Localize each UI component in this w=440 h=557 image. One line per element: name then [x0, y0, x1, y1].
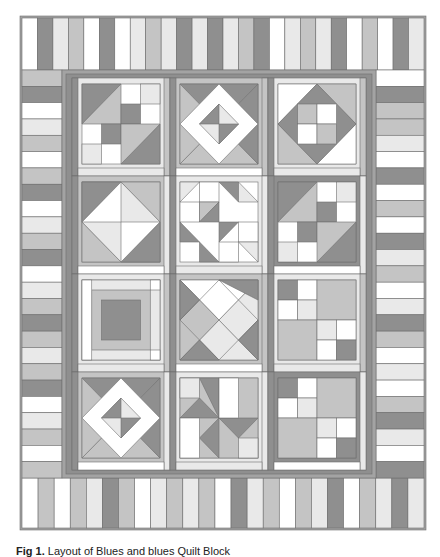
top-border-stripe [53, 18, 68, 70]
right-border-stripe [376, 347, 424, 363]
bottom-border-stripe [263, 478, 279, 528]
left-border-stripe [22, 347, 62, 363]
right-border-stripe [376, 298, 424, 314]
right-border-stripe [376, 413, 424, 429]
left-border-stripe [22, 250, 62, 266]
right-border-stripe [376, 282, 424, 298]
left-border-stripe [22, 70, 62, 86]
left-border-stripe [22, 413, 62, 429]
figure-caption: Fig 1. Layout of Blues and blues Quilt B… [16, 546, 230, 557]
bottom-border-stripe [54, 478, 70, 528]
left-border-stripe [22, 396, 62, 412]
right-border-stripe [376, 315, 424, 331]
right-border-stripe [376, 184, 424, 200]
right-border-stripe [376, 168, 424, 184]
left-border-stripe [22, 331, 62, 347]
left-border-stripe [22, 168, 62, 184]
bottom-border-stripe [38, 478, 54, 528]
top-border-stripe [316, 18, 331, 70]
left-border-stripe [22, 119, 62, 135]
top-border-stripe [378, 18, 393, 70]
quilt-block-3-3 [268, 274, 366, 372]
left-border-stripe [22, 86, 62, 102]
bottom-border-stripe [408, 478, 424, 528]
bottom-border-stripe [151, 478, 167, 528]
top-border-stripe [347, 18, 362, 70]
bottom-border-stripe [328, 478, 344, 528]
right-border-stripe [376, 266, 424, 282]
quilt-block-1-1 [72, 78, 170, 176]
bottom-border-stripe [118, 478, 134, 528]
bottom-border-stripe [183, 478, 199, 528]
top-border-stripe [161, 18, 176, 70]
top-border-stripe [285, 18, 300, 70]
bottom-border-stripe [376, 478, 392, 528]
left-border-stripe [22, 152, 62, 168]
bottom-border-stripe [215, 478, 231, 528]
right-border-stripe [376, 380, 424, 396]
top-border-stripe [99, 18, 114, 70]
top-border-stripe [393, 18, 408, 70]
top-border-stripe [409, 18, 424, 70]
quilt-block-1-2 [170, 78, 268, 176]
right-border-stripe [376, 152, 424, 168]
top-border-stripe [177, 18, 192, 70]
quilt-block-3-2 [170, 274, 268, 372]
bottom-border-stripe [22, 478, 38, 528]
left-border-stripe [22, 103, 62, 119]
caption-text: Layout of Blues and blues Quilt Block [48, 545, 230, 557]
bottom-border-stripe [135, 478, 151, 528]
right-border-stripe [376, 429, 424, 445]
bottom-border-stripe [167, 478, 183, 528]
bottom-border-stripe [199, 478, 215, 528]
quilt-block-4-1 [72, 372, 170, 470]
bottom-border-stripe [70, 478, 86, 528]
left-border-stripe [22, 429, 62, 445]
quilt-block-1-3 [268, 78, 366, 176]
bottom-border-stripe [102, 478, 118, 528]
top-border-stripe [84, 18, 99, 70]
quilt-block-3-1 [72, 274, 170, 372]
quilt-center [62, 70, 376, 478]
right-border-stripe [376, 119, 424, 135]
bottom-border-stripe [360, 478, 376, 528]
top-border-stripe [208, 18, 223, 70]
top-border-stripe [22, 18, 37, 70]
left-border-stripe [22, 266, 62, 282]
quilt-block-4-2 [170, 372, 268, 470]
right-border-stripe [376, 250, 424, 266]
top-border-stripe [269, 18, 284, 70]
left-border-stripe [22, 445, 62, 461]
top-border-stripe [130, 18, 145, 70]
top-border-stripe [68, 18, 83, 70]
right-border-stripe [376, 86, 424, 102]
right-border-stripe [376, 462, 424, 478]
bottom-border-stripe [295, 478, 311, 528]
bottom-border-stripe [231, 478, 247, 528]
bottom-border-stripe [311, 478, 327, 528]
right-border-stripe [376, 103, 424, 119]
right-border-stripe [376, 70, 424, 86]
right-border-stripe [376, 135, 424, 151]
quilt-block-4-3 [268, 372, 366, 470]
top-border-stripe [300, 18, 315, 70]
left-border-stripe [22, 380, 62, 396]
left-border-stripe [22, 184, 62, 200]
top-border-stripe [146, 18, 161, 70]
right-border-stripe [376, 396, 424, 412]
left-border-stripe [22, 217, 62, 233]
top-border-stripe [362, 18, 377, 70]
bottom-border-stripe [247, 478, 263, 528]
right-border-stripe [376, 217, 424, 233]
bottom-border-stripe [392, 478, 408, 528]
top-border-stripe [37, 18, 52, 70]
left-border-stripe [22, 282, 62, 298]
bottom-border-stripe [86, 478, 102, 528]
bottom-border-stripe [344, 478, 360, 528]
left-border-stripe [22, 462, 62, 478]
top-border-stripe [331, 18, 346, 70]
top-border-stripe [223, 18, 238, 70]
right-border-stripe [376, 364, 424, 380]
left-border-stripe [22, 298, 62, 314]
